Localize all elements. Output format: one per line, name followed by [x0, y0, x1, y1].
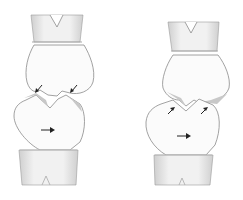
- left-occlusion-panel: [0, 0, 121, 200]
- left-teeth-illustration: [0, 0, 121, 200]
- lower-root: [19, 150, 78, 185]
- upper-root: [168, 22, 219, 51]
- lower-crown: [146, 99, 219, 155]
- lower-root: [154, 155, 213, 185]
- upper-root: [31, 15, 83, 42]
- right-teeth-illustration: [121, 0, 243, 200]
- lower-crown: [14, 93, 85, 150]
- right-occlusion-panel: [121, 0, 242, 200]
- upper-crown: [163, 55, 230, 106]
